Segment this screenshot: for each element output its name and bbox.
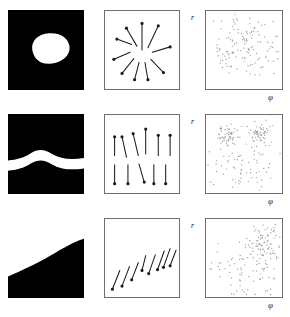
scatter-panel-corner-cluster [205, 218, 283, 298]
antiparallel-arrow-field [105, 115, 179, 193]
scatter-panel-uniform-band [205, 10, 283, 90]
binary-blob-shape [8, 10, 84, 90]
figure-row-edge: r φ [0, 212, 290, 312]
binary-image-panel-blob [8, 10, 84, 90]
binary-edge-shape [8, 218, 84, 298]
axis-label-phi-row0: φ [268, 93, 273, 102]
vector-field-panel-oblique [104, 218, 180, 298]
axis-label-r-row2: r [191, 222, 194, 230]
vector-field-panel-radial [104, 10, 180, 90]
binary-image-panel-band [8, 114, 84, 194]
vector-field-panel-antiparallel [104, 114, 180, 194]
figure-row-blob: r φ [0, 4, 290, 104]
binary-band-shape [8, 114, 84, 194]
axis-label-phi-row2: φ [268, 301, 273, 310]
radial-arrow-field [105, 11, 179, 89]
scatter-points-row0 [206, 11, 282, 89]
axis-label-phi-row1: φ [268, 197, 273, 206]
binary-image-panel-edge [8, 218, 84, 298]
scatter-panel-two-clusters [205, 114, 283, 194]
oblique-arrow-field [105, 219, 179, 297]
figure-root: r φ r φ [0, 0, 290, 317]
scatter-points-row1 [206, 115, 282, 193]
figure-row-band: r φ [0, 108, 290, 208]
axis-label-r-row1: r [191, 118, 194, 126]
axis-label-r-row0: r [191, 14, 194, 22]
scatter-points-row2 [206, 219, 282, 297]
